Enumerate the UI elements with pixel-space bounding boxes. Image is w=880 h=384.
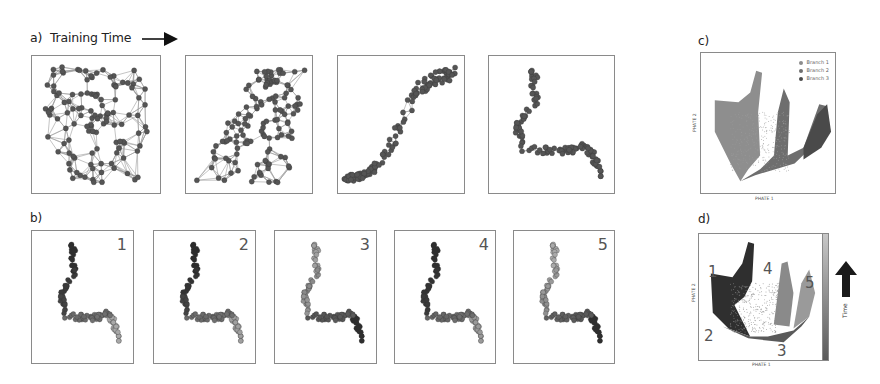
panel-number: 4 bbox=[479, 235, 489, 254]
density-point bbox=[782, 126, 783, 127]
density-point bbox=[748, 150, 749, 151]
density-point bbox=[765, 321, 766, 322]
graph-node bbox=[292, 69, 297, 74]
panel-number: 3 bbox=[360, 235, 370, 254]
legend-marker bbox=[799, 77, 803, 81]
density-point bbox=[747, 296, 748, 297]
graph-node bbox=[234, 152, 239, 157]
density-point bbox=[786, 170, 787, 171]
density-point bbox=[744, 286, 745, 287]
density-point bbox=[746, 168, 747, 169]
graph-node bbox=[235, 146, 240, 151]
density-point bbox=[750, 312, 751, 313]
density-point bbox=[773, 151, 774, 152]
density-point bbox=[741, 153, 742, 154]
graph-node bbox=[99, 170, 104, 175]
density-point bbox=[773, 116, 774, 117]
graph-node bbox=[437, 315, 442, 320]
density-point bbox=[772, 117, 773, 118]
graph-node bbox=[116, 146, 121, 151]
density-point bbox=[778, 146, 779, 147]
graph-node bbox=[62, 316, 67, 321]
density-point bbox=[763, 331, 764, 332]
graph-node bbox=[213, 156, 218, 161]
density-point bbox=[760, 311, 761, 312]
density-point bbox=[738, 150, 739, 151]
density-point bbox=[756, 132, 757, 133]
density-point bbox=[758, 294, 759, 295]
density-point bbox=[779, 171, 780, 172]
graph-node bbox=[262, 69, 267, 74]
graph-node bbox=[51, 67, 56, 72]
density-point bbox=[788, 170, 789, 171]
density-point bbox=[785, 164, 786, 165]
density-point bbox=[766, 118, 767, 119]
density-point bbox=[764, 165, 765, 166]
density-point bbox=[750, 312, 751, 313]
graph-node bbox=[142, 102, 147, 107]
density-point bbox=[755, 320, 756, 321]
graph-node bbox=[313, 258, 318, 263]
graph-node bbox=[62, 141, 67, 146]
density-point bbox=[787, 115, 788, 116]
time-panel-1: 1 bbox=[31, 230, 134, 364]
density-point bbox=[757, 317, 758, 318]
density-point bbox=[767, 163, 768, 164]
density-point bbox=[785, 168, 786, 169]
graph-node bbox=[82, 175, 87, 180]
density-point bbox=[785, 130, 786, 131]
density-point bbox=[779, 121, 780, 122]
graph-node bbox=[286, 134, 291, 139]
graph-node bbox=[465, 312, 470, 317]
density-point bbox=[741, 151, 742, 152]
density-point bbox=[769, 300, 770, 301]
legend-marker bbox=[799, 61, 803, 65]
density-point bbox=[735, 131, 736, 132]
density-point bbox=[762, 129, 763, 130]
graph-node bbox=[571, 318, 576, 323]
graph-node bbox=[90, 150, 95, 155]
graph-node bbox=[111, 320, 116, 325]
density-point bbox=[779, 141, 780, 142]
up-arrow-icon bbox=[835, 261, 857, 297]
density-point bbox=[758, 160, 759, 161]
density-point bbox=[776, 130, 777, 131]
density-point bbox=[747, 114, 748, 115]
density-point bbox=[732, 144, 733, 145]
density-point bbox=[741, 287, 742, 288]
graph-node bbox=[77, 68, 82, 73]
density-point bbox=[755, 306, 756, 307]
graph-node bbox=[67, 279, 72, 284]
graph-node bbox=[217, 314, 222, 319]
graph-node bbox=[120, 80, 125, 85]
density-point bbox=[738, 291, 739, 292]
density-point bbox=[748, 315, 749, 316]
graph-node bbox=[519, 149, 524, 154]
graph-node bbox=[556, 315, 561, 320]
density-point bbox=[733, 302, 734, 303]
density-point bbox=[753, 309, 754, 310]
density-point bbox=[749, 323, 750, 324]
density-point bbox=[771, 167, 772, 168]
graph-node bbox=[69, 243, 74, 248]
density-point bbox=[731, 312, 732, 313]
density-point bbox=[784, 140, 785, 141]
graph-edge bbox=[269, 164, 289, 166]
density-point bbox=[777, 296, 778, 297]
density-point bbox=[766, 165, 767, 166]
graph-node bbox=[537, 147, 542, 152]
density-point bbox=[744, 139, 745, 140]
density-point bbox=[736, 154, 737, 155]
graph-node bbox=[285, 83, 290, 88]
density-point bbox=[761, 330, 762, 331]
graph-node bbox=[333, 318, 338, 323]
graph-node bbox=[312, 263, 317, 268]
graph-node bbox=[216, 175, 221, 180]
density-point bbox=[781, 148, 782, 149]
graph-node bbox=[70, 258, 75, 263]
graph-node bbox=[222, 178, 227, 183]
density-point bbox=[748, 149, 749, 150]
density-point bbox=[761, 291, 762, 292]
density-point bbox=[753, 133, 754, 134]
graph-node bbox=[238, 128, 243, 133]
